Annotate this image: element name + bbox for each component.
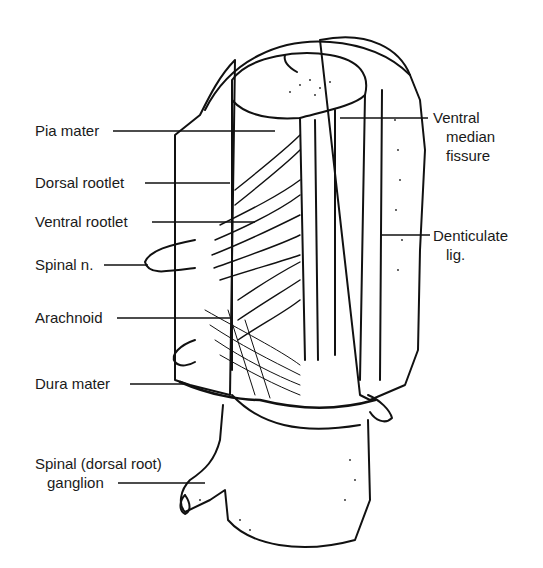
spinal-nerve bbox=[145, 240, 195, 271]
label-dura-mater: Dura mater bbox=[35, 374, 110, 393]
fissure-strip-left bbox=[300, 118, 305, 360]
horn-notch bbox=[285, 55, 297, 72]
label-ventral-median-fissure-line1: Ventral bbox=[433, 108, 480, 127]
fissure-strip-mid bbox=[315, 120, 318, 360]
label-spinal-ganglion-line2: ganglion bbox=[47, 473, 104, 492]
label-spinal-n: Spinal n. bbox=[35, 255, 93, 274]
label-ventral-rootlet: Ventral rootlet bbox=[35, 212, 128, 231]
rootlets bbox=[212, 135, 300, 340]
arachnoid-web bbox=[205, 310, 300, 398]
label-dorsal-rootlet: Dorsal rootlet bbox=[35, 173, 124, 192]
label-ventral-median-fissure-line3: fissure bbox=[446, 146, 490, 165]
label-arachnoid: Arachnoid bbox=[35, 308, 103, 327]
cord-right-edge bbox=[360, 95, 365, 380]
label-ventral-median-fissure-line2: median bbox=[446, 127, 495, 146]
label-denticulate-lig-line1: Denticulate bbox=[433, 226, 508, 245]
lower-left-stub bbox=[174, 340, 195, 365]
spinal-cord-diagram: Pia mater Dorsal rootlet Ventral rootlet… bbox=[0, 0, 543, 568]
label-pia-mater: Pia mater bbox=[35, 121, 99, 140]
dura-cut-edge bbox=[180, 382, 375, 408]
cord-cross-section bbox=[232, 53, 366, 118]
label-denticulate-lig-line2: lig. bbox=[446, 245, 465, 264]
lower-sac bbox=[181, 405, 370, 547]
label-spinal-ganglion-line1: Spinal (dorsal root) bbox=[35, 454, 162, 473]
